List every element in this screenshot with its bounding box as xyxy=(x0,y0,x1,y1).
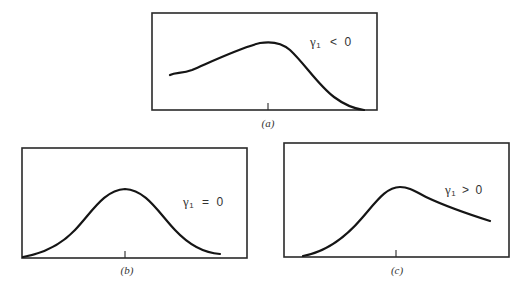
gamma-subscript: 1 xyxy=(316,41,321,50)
relation: > xyxy=(462,183,470,197)
gamma-subscript: 1 xyxy=(189,201,194,210)
value: 0 xyxy=(344,35,351,49)
value: 0 xyxy=(475,183,482,197)
panel-b-gamma-label: γ1 = 0 xyxy=(183,194,224,210)
relation: < xyxy=(330,35,338,49)
value: 0 xyxy=(216,195,223,209)
panel-a-frame xyxy=(152,13,377,110)
panel-c-frame xyxy=(284,143,509,257)
panel-c-caption: (c) xyxy=(391,264,403,276)
panel-c xyxy=(284,143,509,257)
panel-b-caption: (b) xyxy=(121,264,134,276)
panel-c-gamma-label: γ1 > 0 xyxy=(445,182,483,198)
relation: = xyxy=(202,195,210,209)
skewness-figure xyxy=(0,0,527,284)
panel-a-caption: (a) xyxy=(262,117,275,129)
panel-a-gamma-label: γ1 < 0 xyxy=(310,34,352,50)
gamma-subscript: 1 xyxy=(451,189,456,198)
panel-a xyxy=(152,13,377,110)
panel-a-density-curve xyxy=(170,42,364,110)
